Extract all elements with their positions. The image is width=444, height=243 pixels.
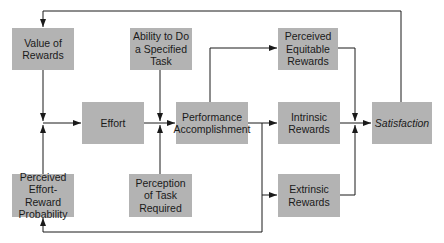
box-intrinsic-rewards: Intrinsic Rewards [278, 102, 340, 144]
box-effort: Effort [82, 102, 144, 144]
box-performance-accomplishment: Performance Accomplishment [176, 102, 248, 144]
box-effort-reward-probability: Perceived Effort-Reward Probability [12, 174, 74, 217]
box-satisfaction: Satisfaction [372, 102, 432, 144]
box-ability: Ability to Do a Specified Task [130, 28, 192, 70]
box-perception-of-task: Perception of Task Required [129, 174, 192, 217]
box-perceived-equitable-rewards: Perceived Equitable Rewards [278, 28, 338, 70]
box-value-of-rewards: Value of Rewards [12, 28, 74, 70]
box-extrinsic-rewards: Extrinsic Rewards [278, 174, 340, 217]
